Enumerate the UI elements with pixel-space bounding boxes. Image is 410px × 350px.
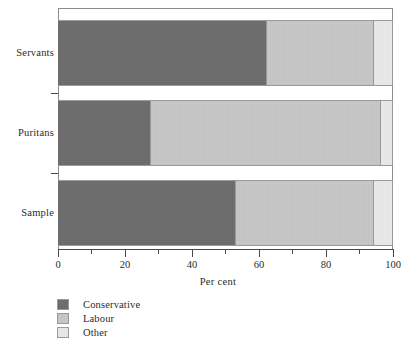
bar-segment-puritans-labour — [151, 100, 381, 166]
y-axis-tick-1 — [51, 93, 58, 94]
x-axis-tick-40 — [192, 250, 193, 257]
x-axis-label-20: 20 — [120, 259, 131, 270]
legend-swatch-conservative — [57, 299, 69, 310]
x-axis-tick-20 — [125, 250, 126, 257]
x-axis-title: Per cent — [0, 276, 410, 287]
y-axis-tick-2 — [51, 173, 58, 174]
x-axis-tick-80 — [326, 250, 327, 257]
bar-segment-sample-labour — [236, 180, 374, 246]
x-axis-tick-10 — [91, 250, 92, 254]
legend-label-labour: Labour — [83, 313, 114, 324]
x-axis-title-text: Per cent — [200, 276, 237, 287]
x-axis-label-40: 40 — [187, 259, 198, 270]
bar-segment-servants-conservative — [58, 20, 267, 86]
x-axis-line — [58, 249, 394, 250]
x-axis-tick-60 — [259, 250, 260, 257]
x-axis-tick-100 — [393, 250, 394, 257]
category-label-sample: Sample — [21, 207, 54, 218]
category-label-puritans: Puritans — [18, 127, 54, 138]
bar-segment-servants-labour — [267, 20, 374, 86]
x-axis-label-100: 100 — [385, 259, 401, 270]
x-axis-tick-30 — [158, 250, 159, 254]
legend: Conservative Labour Other — [57, 297, 140, 339]
stacked-bar-chart: Servants Puritans Sample 0 20 40 60 80 1… — [0, 0, 410, 350]
bar-segment-puritans-other — [381, 100, 393, 166]
legend-swatch-labour — [57, 313, 69, 324]
bar-segment-sample-other — [374, 180, 393, 246]
x-axis-tick-70 — [292, 250, 293, 254]
legend-item-other: Other — [57, 325, 140, 339]
legend-swatch-other — [57, 327, 69, 338]
legend-item-labour: Labour — [57, 311, 140, 325]
bar-segment-servants-other — [374, 20, 393, 86]
bar-segment-puritans-conservative — [58, 100, 151, 166]
x-axis-tick-50 — [225, 250, 226, 254]
x-axis-label-60: 60 — [254, 259, 265, 270]
legend-item-conservative: Conservative — [57, 297, 140, 311]
legend-label-other: Other — [83, 327, 108, 338]
bar-segment-sample-conservative — [58, 180, 236, 246]
x-axis-tick-0 — [58, 250, 59, 257]
category-label-servants: Servants — [16, 47, 54, 58]
x-axis-tick-90 — [359, 250, 360, 254]
x-axis-label-0: 0 — [55, 259, 60, 270]
legend-label-conservative: Conservative — [83, 299, 140, 310]
x-axis-label-80: 80 — [321, 259, 332, 270]
